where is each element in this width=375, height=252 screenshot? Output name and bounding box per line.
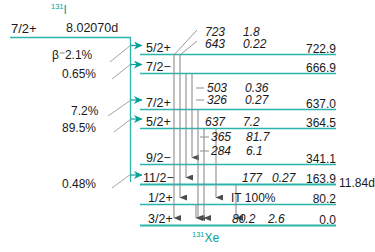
transition-energy-1: 643 — [205, 38, 225, 50]
transition-energy-4: 637 — [205, 116, 225, 128]
daughter-isotope-label: 131Xe — [192, 231, 219, 244]
transition-energy-5: 365 — [211, 131, 231, 143]
transition-intensity-4: 7.2 — [243, 116, 260, 128]
transition-intensity-6: 6.1 — [246, 145, 263, 157]
level-energy-1: 666.9 — [256, 62, 336, 74]
beta-branch-label-4: 0.48% — [62, 178, 96, 190]
transition-intensity-7: 0.27 — [272, 172, 295, 184]
level-spin-7: 3/2+ — [148, 213, 173, 226]
parent-mass-number: 131 — [51, 2, 64, 11]
parent-symbol: I — [64, 3, 67, 17]
level-spin-1: 7/2− — [146, 61, 171, 74]
transition-energy-6: 284 — [211, 145, 231, 157]
level-energy-4: 341.1 — [256, 153, 336, 165]
parent-half-life: 8.02070d — [66, 22, 118, 35]
beta-branch-label-1: 0.65% — [62, 68, 96, 80]
isomer-half-life-label: 11.84d — [339, 177, 375, 189]
transition-energy-7: 177 — [242, 172, 262, 184]
it-branch-label: IT 100% — [231, 192, 275, 204]
level-spin-3: 5/2+ — [146, 116, 171, 129]
transition-intensity-8: 2.6 — [268, 213, 285, 225]
transition-intensity-3: 0.27 — [245, 94, 268, 106]
level-energy-0: 722.9 — [256, 43, 336, 55]
beta-branch-label-0: β⁻2.1% — [52, 49, 92, 61]
transition-energy-8: 80.2 — [232, 213, 255, 225]
level-spin-0: 5/2+ — [146, 42, 171, 55]
level-energy-5: 163.9 — [256, 173, 336, 185]
level-energy-3: 364.5 — [256, 117, 336, 129]
daughter-mass-number: 131 — [192, 230, 205, 239]
transition-energy-3: 326 — [207, 94, 227, 106]
transition-intensity-1: 0.22 — [243, 38, 266, 50]
transition-intensity-5: 81.7 — [246, 131, 269, 143]
level-spin-2: 7/2+ — [146, 97, 171, 110]
daughter-symbol: Xe — [205, 231, 220, 245]
beta-branch-label-3: 89.5% — [62, 122, 96, 134]
level-spin-6: 1/2+ — [148, 192, 173, 205]
parent-isotope-label: 131I — [51, 3, 67, 16]
parent-spin-parity: 7/2+ — [11, 22, 37, 35]
beta-branch-arrows — [108, 45, 142, 188]
beta-branch-label-2: 7.2% — [71, 105, 98, 117]
level-spin-5: 11/2− — [143, 172, 174, 185]
level-spin-4: 9/2− — [146, 152, 171, 165]
